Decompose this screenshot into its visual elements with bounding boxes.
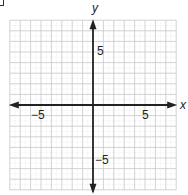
arrow-up-icon [90, 19, 97, 29]
arrow-right-icon [167, 102, 177, 109]
y-axis-label: y [92, 2, 98, 14]
x-axis-label: x [180, 99, 186, 111]
arrow-left-icon [9, 102, 19, 109]
x-tick-label-neg5: −5 [31, 109, 45, 121]
y-tick-label-5: 5 [97, 45, 104, 57]
y-tick-label-neg5: −5 [95, 154, 109, 166]
coordinate-grid [0, 0, 188, 195]
arrow-down-icon [90, 184, 97, 194]
x-tick-label-5: 5 [142, 109, 149, 121]
